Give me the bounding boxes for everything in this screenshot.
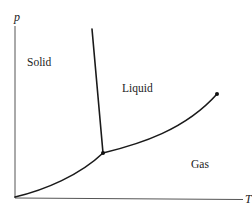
region-label-gas: Gas	[191, 158, 209, 170]
phase-diagram: p T Solid Liquid Gas	[0, 0, 252, 216]
region-label-solid: Solid	[27, 56, 52, 68]
region-label-liquid: Liquid	[122, 82, 153, 95]
x-axis	[15, 198, 243, 200]
sublimation-curve	[15, 153, 103, 197]
triple-point	[101, 151, 105, 155]
critical-point	[215, 92, 219, 96]
x-axis-label: T	[245, 192, 252, 206]
vaporization-curve	[103, 94, 217, 153]
fusion-curve	[92, 29, 103, 153]
y-axis-label: p	[13, 10, 20, 24]
